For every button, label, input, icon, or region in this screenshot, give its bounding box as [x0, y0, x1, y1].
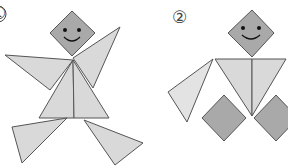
right-eye-icon	[257, 26, 261, 30]
left-eye-icon	[63, 28, 67, 32]
figure-1-label: ①	[0, 5, 6, 22]
tangram-canvas	[0, 0, 288, 168]
left-foot-square	[202, 95, 246, 141]
left-leg-triangle	[12, 118, 67, 163]
figure-1	[5, 11, 143, 165]
right-leg-triangle	[84, 120, 143, 165]
right-eye-icon	[77, 28, 81, 32]
figure-2	[168, 10, 288, 141]
left-eye-icon	[241, 26, 245, 30]
figure-2-label: ②	[172, 9, 187, 26]
left-arm-triangle	[168, 59, 213, 122]
head-square	[228, 10, 274, 57]
